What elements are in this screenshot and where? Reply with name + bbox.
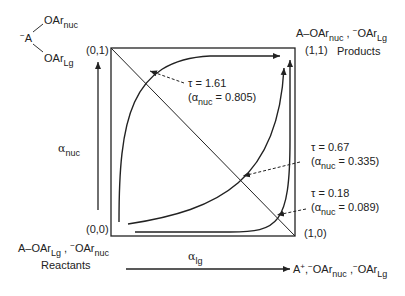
tau-value: τ = 1.61 <box>188 77 256 89</box>
corner-label-top-right: (1,1) <box>305 44 328 56</box>
formula-subscript: Lg <box>377 33 387 43</box>
formula-subscript: Lg <box>377 269 387 279</box>
charge-sign: − <box>353 26 358 35</box>
alpha-value: = 0.089) <box>336 201 380 213</box>
products-label: Products <box>337 45 380 57</box>
charge-sign: − <box>353 262 358 271</box>
charge-sign: + <box>300 262 305 271</box>
axis-subscript: lg <box>195 256 202 266</box>
formula-text: A–OAr <box>296 27 329 39</box>
formula-text: OAr <box>313 263 333 275</box>
corner-label-top-left: (0,1) <box>86 44 109 56</box>
alpha-prefix: (α <box>311 201 321 213</box>
formula-text: OAr <box>75 242 95 254</box>
group-text: OAr <box>44 14 64 26</box>
alpha-subscript: nuc <box>321 207 336 217</box>
intermediate-formula: A+,−OArnuc ,−OArLg <box>293 263 387 277</box>
x-axis-label: αlg <box>188 250 202 263</box>
corner-label-bottom-right: (1,0) <box>304 227 327 239</box>
tau-value: τ = 0.67 <box>311 141 379 153</box>
reactants-formula: A–OArLg , −OArnuc <box>18 242 109 256</box>
annotation-tau-0-67: τ = 0.67 (αnuc = 0.335) <box>311 141 379 168</box>
group-subscript: Lg <box>64 58 74 68</box>
separator: , <box>344 27 350 39</box>
alpha-subscript: nuc <box>198 97 213 107</box>
annotation-tau-1-61: τ = 1.61 (αnuc = 0.805) <box>188 77 256 104</box>
formula-subscript: nuc <box>329 33 344 43</box>
structure-top-group: OArnuc <box>44 14 78 27</box>
axis-subscript: nuc <box>65 148 80 158</box>
charge-sign: − <box>70 241 75 250</box>
formula-text: OAr <box>357 27 377 39</box>
formula-text: OAr <box>358 263 378 275</box>
annotation-tau-0-18: τ = 0.18 (αnuc = 0.089) <box>311 187 379 214</box>
reactants-label: Reactants <box>41 259 91 271</box>
alpha-subscript: nuc <box>321 161 336 171</box>
formula-subscript: nuc <box>94 248 109 258</box>
separator: , <box>61 242 67 254</box>
charge-sign: − <box>20 31 25 40</box>
group-subscript: nuc <box>64 20 79 30</box>
corner-label-bottom-left: (0,0) <box>86 223 109 235</box>
alpha-value: = 0.805) <box>213 91 257 103</box>
tau-value: τ = 0.18 <box>311 187 379 199</box>
products-formula: A–OArnuc , −OArLg <box>296 27 387 41</box>
charge-sign: − <box>308 262 313 271</box>
structure-center: −A <box>20 32 32 46</box>
bond-bottom <box>33 44 43 52</box>
alpha-value: = 0.335) <box>336 155 380 167</box>
formula-subscript: Lg <box>51 248 61 258</box>
formula-text: A–OAr <box>18 242 51 254</box>
pointer-tau-1-61 <box>150 71 184 83</box>
group-text: OAr <box>44 52 64 64</box>
y-axis-label: αnuc <box>58 142 80 155</box>
more-o-ferrall-jencks-diagram: −A OArnuc OArLg (0,1) (1,1) (0,0) (1,0) … <box>0 0 405 296</box>
atom-a: A <box>25 32 32 44</box>
alpha-prefix: (α <box>311 155 321 167</box>
alpha-prefix: (α <box>188 91 198 103</box>
bond-top <box>33 24 43 32</box>
formula-subscript: nuc <box>332 269 347 279</box>
structure-bottom-group: OArLg <box>44 52 74 65</box>
